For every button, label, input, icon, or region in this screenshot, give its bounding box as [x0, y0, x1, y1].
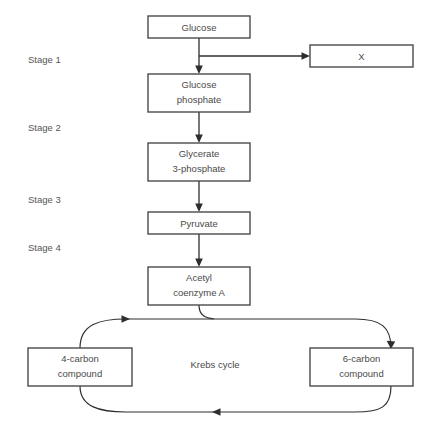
box-product-x: X	[310, 45, 413, 67]
box-glucose-phosphate-label-line1: Glucose	[182, 79, 217, 90]
arrowhead-cycle-top-entry	[122, 315, 131, 323]
box-pyruvate-label: Pyruvate	[180, 218, 218, 229]
box-six-carbon-compound: 6-carbon compound	[310, 348, 413, 386]
box-acetyl-coenzyme-a-label-line2: coenzyme A	[173, 287, 225, 298]
arrowhead-glucose-phosphate-to-glycerate	[195, 135, 203, 144]
arrowhead-glucose-to-glucose-phosphate	[195, 66, 203, 75]
flow-acetyl-coa-into-cycle	[199, 305, 214, 319]
box-glucose-phosphate: Glucose phosphate	[148, 74, 250, 112]
box-glucose: Glucose	[148, 16, 250, 38]
respiration-pathway-diagram: Stage 1 Stage 2 Stage 3 Stage 4	[0, 0, 431, 421]
box-four-carbon-compound-label-line2: compound	[58, 368, 102, 379]
cycle-arc-top	[80, 319, 391, 348]
arrowhead-glucose-to-x	[302, 52, 311, 60]
box-glycerate-3-phosphate-label-line2: 3-phosphate	[173, 163, 226, 174]
box-six-carbon-compound-label-line1: 6-carbon	[343, 353, 381, 364]
stage-label-2: Stage 2	[28, 122, 61, 133]
arrowhead-cycle-bottom-to-four-carbon	[212, 408, 221, 416]
arrowhead-glycerate-to-pyruvate	[195, 204, 203, 213]
box-product-x-label: X	[358, 51, 365, 62]
box-four-carbon-compound-label-line1: 4-carbon	[61, 353, 99, 364]
krebs-cycle-label: Krebs cycle	[190, 359, 239, 370]
box-six-carbon-compound-label-line2: compound	[339, 368, 383, 379]
stage-label-1: Stage 1	[28, 54, 61, 65]
cycle-arc-bottom	[80, 386, 391, 412]
box-glycerate-3-phosphate: Glycerate 3-phosphate	[148, 143, 250, 181]
box-glycerate-3-phosphate-label-line1: Glycerate	[179, 148, 220, 159]
box-acetyl-coenzyme-a: Acetyl coenzyme A	[148, 267, 250, 305]
box-acetyl-coenzyme-a-label-line1: Acetyl	[186, 272, 212, 283]
box-pyruvate: Pyruvate	[148, 212, 250, 234]
stage-label-4: Stage 4	[28, 242, 61, 253]
arrowhead-pyruvate-to-acetyl-coa	[195, 259, 203, 268]
box-glucose-phosphate-label-line2: phosphate	[177, 94, 221, 105]
box-four-carbon-compound: 4-carbon compound	[28, 348, 132, 386]
stage-label-3: Stage 3	[28, 194, 61, 205]
box-glucose-label: Glucose	[182, 22, 217, 33]
